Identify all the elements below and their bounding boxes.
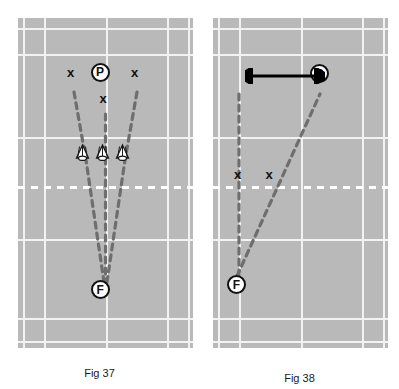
shuttle-right-37 [114,143,131,161]
trajectory-left-37 [74,92,104,282]
trajectory-right-37 [107,92,137,282]
shuttle-left-37 [74,143,91,161]
figure-38: P F x x Fig 38 [200,0,399,389]
movement-arrow-38 [245,68,325,84]
target-right-38: x [266,168,273,181]
target-right-37: x [131,66,138,79]
shuttle-centre-37 [94,143,111,161]
court-38: P F x x [213,18,388,348]
figure-37-caption: Fig 37 [0,367,199,379]
target-centre-37: x [99,92,106,105]
target-left-37: x [67,66,74,79]
figure-37: P F x x x Fig 37 [0,0,199,389]
feeder-marker-37[interactable]: F [91,280,110,299]
figure-38-caption: Fig 38 [200,372,399,384]
target-left-38: x [234,168,241,181]
player-marker-37[interactable]: P [91,63,110,82]
court-37: P F x x x [18,18,193,348]
trajectory-crosscourt-38 [237,94,320,276]
